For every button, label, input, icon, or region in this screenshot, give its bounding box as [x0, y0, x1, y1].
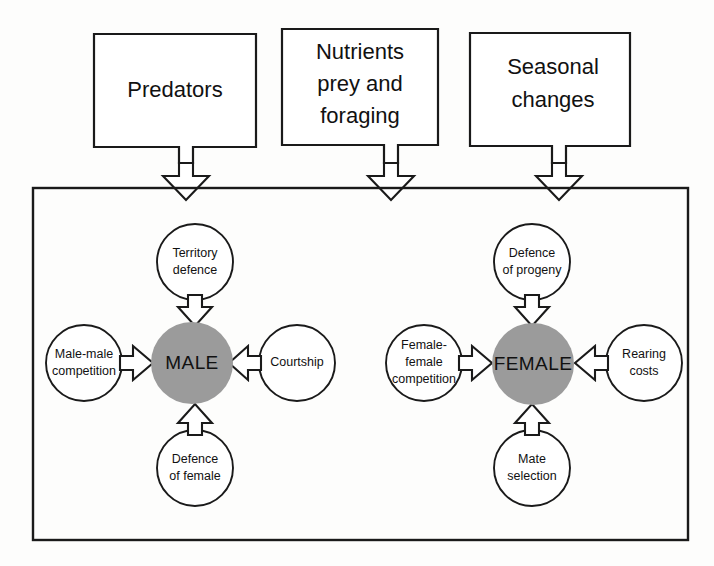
- arrow-courtship-to-male: [229, 346, 261, 380]
- nutrients-label-line-2: prey and: [317, 71, 403, 96]
- mate-selection-arrow: [515, 404, 549, 435]
- male-male-competition-circle: [46, 325, 122, 401]
- nutrients-label-line-1: Nutrients: [316, 39, 404, 64]
- male-cluster: Territory defence Male-male competition …: [46, 224, 335, 506]
- satellite-territory-defence[interactable]: Territory defence: [157, 224, 233, 300]
- mate-selection-label-line-2: selection: [507, 469, 556, 483]
- arrow-territory-defence-to-male: [178, 295, 212, 326]
- external-factor-box-predators[interactable]: Predators: [94, 34, 256, 163]
- defence-of-female-label-line-2: of female: [169, 469, 220, 483]
- arrow-defence-of-female-to-male: [178, 404, 212, 435]
- defence-of-progeny-label-line-2: of progeny: [502, 263, 562, 277]
- female-female-competition-label-line-3: competition: [392, 372, 456, 386]
- female-female-competition-arrow: [459, 346, 492, 380]
- rearing-costs-label-line-2: costs: [629, 364, 658, 378]
- arrow-seasonal-to-frame: [536, 163, 582, 200]
- courtship-label: Courtship: [270, 355, 324, 369]
- mate-selection-label-line-1: Mate: [518, 452, 546, 466]
- seasonal-label-line-1: Seasonal: [507, 54, 599, 79]
- territory-defence-label-line-2: defence: [173, 263, 218, 277]
- defence-of-progeny-label-line-1: Defence: [509, 246, 556, 260]
- defence-of-progeny-circle: [494, 224, 570, 300]
- arrow-rearing-costs-to-female: [575, 346, 608, 380]
- defence-of-progeny-arrow: [515, 295, 549, 326]
- diagram-root: Predators Nutrients prey and foraging Se…: [0, 0, 714, 566]
- external-factor-box-nutrients[interactable]: Nutrients prey and foraging: [282, 29, 438, 163]
- predators-label: Predators: [127, 77, 222, 102]
- defence-of-female-circle: [157, 430, 233, 506]
- rearing-costs-label-line-1: Rearing: [622, 347, 666, 361]
- female-female-competition-label-line-1: Female-: [401, 338, 447, 352]
- defence-of-female-arrow: [178, 404, 212, 435]
- satellite-rearing-costs[interactable]: Rearing costs: [606, 325, 682, 401]
- core-node-female[interactable]: FEMALE: [492, 323, 574, 405]
- male-male-competition-label-line-2: competition: [52, 364, 116, 378]
- sexual-selection-diagram: Predators Nutrients prey and foraging Se…: [0, 0, 714, 566]
- territory-defence-label-line-1: Territory: [172, 246, 218, 260]
- arrow-male-male-competition-to-male: [120, 346, 153, 380]
- arrow-female-female-competition-to-female: [459, 346, 492, 380]
- satellite-defence-of-female[interactable]: Defence of female: [157, 430, 233, 506]
- core-node-male[interactable]: MALE: [151, 322, 233, 404]
- satellite-female-female-competition[interactable]: Female- female competition: [386, 325, 462, 401]
- territory-defence-arrow: [178, 295, 212, 326]
- mate-selection-circle: [494, 430, 570, 506]
- male-core-label: MALE: [165, 352, 218, 373]
- seasonal-label-line-2: changes: [511, 87, 594, 112]
- satellite-male-male-competition[interactable]: Male-male competition: [46, 325, 122, 401]
- male-male-competition-arrow: [120, 346, 153, 380]
- defence-of-female-label-line-1: Defence: [172, 452, 219, 466]
- seasonal-arrowhead: [536, 163, 582, 200]
- nutrients-label-line-3: foraging: [320, 103, 400, 128]
- arrow-mate-selection-to-female: [515, 404, 549, 435]
- satellite-mate-selection[interactable]: Mate selection: [494, 430, 570, 506]
- arrow-nutrients-to-frame: [368, 163, 414, 200]
- arrow-predators-to-frame: [163, 163, 209, 200]
- female-cluster: Defence of progeny Female- female compet…: [386, 224, 682, 506]
- nutrients-arrowhead: [368, 163, 414, 200]
- rearing-costs-circle: [606, 325, 682, 401]
- arrow-defence-of-progeny-to-female: [515, 295, 549, 326]
- female-female-competition-label-line-2: female: [405, 355, 443, 369]
- female-core-label: FEMALE: [494, 353, 572, 374]
- satellite-defence-of-progeny[interactable]: Defence of progeny: [494, 224, 570, 300]
- satellite-courtship[interactable]: Courtship: [259, 325, 335, 401]
- rearing-costs-arrow: [575, 346, 608, 380]
- courtship-arrow: [229, 346, 261, 380]
- male-male-competition-label-line-1: Male-male: [55, 347, 113, 361]
- territory-defence-circle: [157, 224, 233, 300]
- external-factor-box-seasonal[interactable]: Seasonal changes: [470, 33, 630, 163]
- predators-arrowhead: [163, 163, 209, 200]
